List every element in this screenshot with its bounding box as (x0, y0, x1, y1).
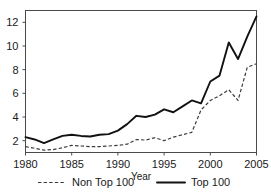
y-tick-label: 6 (12, 87, 18, 99)
x-tick-label: 1995 (152, 158, 176, 170)
x-tick-label: 1980 (13, 158, 37, 170)
x-tick-label: 1990 (106, 158, 130, 170)
y-tick-label: 12 (6, 16, 18, 28)
line-chart: 24681012 198019851990199520002005 Year N… (0, 0, 271, 195)
y-tick-label: 2 (12, 135, 18, 147)
x-axis-tick-labels: 198019851990199520002005 (13, 158, 268, 170)
legend-label: Non Top 100 (72, 176, 134, 188)
x-tick-label: 1985 (59, 158, 83, 170)
series-line-top-100 (26, 16, 257, 143)
legend-label: Top 100 (191, 176, 230, 188)
chart-legend: Non Top 100Top 100 (38, 176, 230, 188)
chart-container: 24681012 198019851990199520002005 Year N… (0, 0, 271, 195)
y-tick-label: 4 (12, 111, 18, 123)
y-tick-label: 8 (12, 64, 18, 76)
x-tick-label: 2000 (198, 158, 222, 170)
y-tick-label: 10 (6, 40, 18, 52)
plot-frame (26, 11, 257, 153)
y-axis-tick-labels: 24681012 (6, 16, 18, 146)
x-tick-label: 2005 (244, 158, 268, 170)
